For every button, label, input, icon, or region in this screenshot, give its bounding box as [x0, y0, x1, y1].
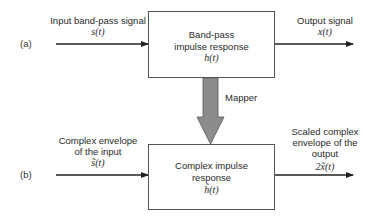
block-b-line2: response [149, 172, 274, 184]
input-signal-text: Input band-pass signal [36, 15, 160, 26]
bandpass-impulse-response-block: Band-pass impulse response h(t) [148, 11, 275, 78]
block-a-line2: impulse response [149, 41, 274, 53]
complex-impulse-response-block: Complex impulse response h̃(t) [148, 144, 275, 210]
input-signal-symbol: s(t) [36, 26, 160, 37]
scaled-complex-envelope-output-label: Scaled complex envelope of the output 2x… [288, 126, 362, 172]
output-b-symbol: 2x̃(t) [288, 161, 362, 172]
input-b-line1: Complex envelope [40, 135, 156, 146]
block-a-line1: Band-pass [149, 29, 274, 41]
block-b-symbol: h̃(t) [149, 184, 274, 196]
mapper-label: Mapper [225, 92, 257, 103]
output-signal-symbol: x(t) [290, 26, 360, 37]
output-signal-label: Output signal x(t) [290, 15, 360, 37]
output-b-line2: envelope of the [288, 137, 362, 148]
complex-envelope-input-label: Complex envelope of the input s̃(t) [40, 135, 156, 168]
block-b-line1: Complex impulse [149, 160, 274, 172]
output-b-line1: Scaled complex [288, 126, 362, 137]
output-b-line3: output [288, 148, 362, 159]
input-signal-label: Input band-pass signal s(t) [36, 15, 160, 37]
part-b-tag: (b) [20, 169, 32, 180]
part-a-tag: (a) [20, 38, 32, 49]
output-signal-text: Output signal [290, 15, 360, 26]
input-b-symbol: s̃(t) [40, 157, 156, 168]
mapper-arrow-icon [197, 78, 224, 144]
block-a-symbol: h(t) [149, 52, 274, 64]
input-b-line2: of the input [40, 146, 156, 157]
